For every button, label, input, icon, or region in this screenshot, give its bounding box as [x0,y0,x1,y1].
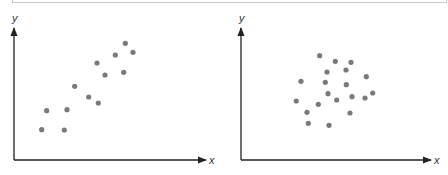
data-point [86,94,91,99]
data-point [317,53,322,58]
data-point [333,59,338,64]
x-axis-label: x [208,154,215,166]
x-axis-label: x [433,154,440,166]
data-point [306,121,311,126]
data-point [344,82,349,87]
data-point [347,110,352,115]
data-point [349,94,354,99]
data-point [334,97,339,102]
data-point [304,110,309,115]
data-point [326,123,331,128]
data-point [370,90,375,95]
data-point [96,100,101,105]
data-point [343,67,348,72]
data-point [348,60,353,65]
data-point [39,127,44,132]
data-point [298,79,303,84]
data-point [102,72,107,77]
data-point [130,50,135,55]
data-point [123,41,128,46]
data-point [62,127,67,132]
y-axis-label: y [238,12,246,24]
data-point [113,52,118,57]
data-point [121,70,126,75]
data-point [364,74,369,79]
y-axis-label: y [11,12,19,24]
no-correlation-scatter: x y [238,12,440,166]
data-point [94,60,99,65]
data-point [362,95,367,100]
data-point [294,98,299,103]
scatter-plots: x y x y [0,0,448,175]
data-point [44,108,49,113]
positive-correlation-scatter: x y [11,12,215,166]
data-point [316,102,321,107]
data-point [64,107,69,112]
data-point [72,84,77,89]
data-point [325,91,330,96]
data-point [323,80,328,85]
data-points [39,41,135,133]
data-point [324,69,329,74]
data-points [294,53,376,128]
